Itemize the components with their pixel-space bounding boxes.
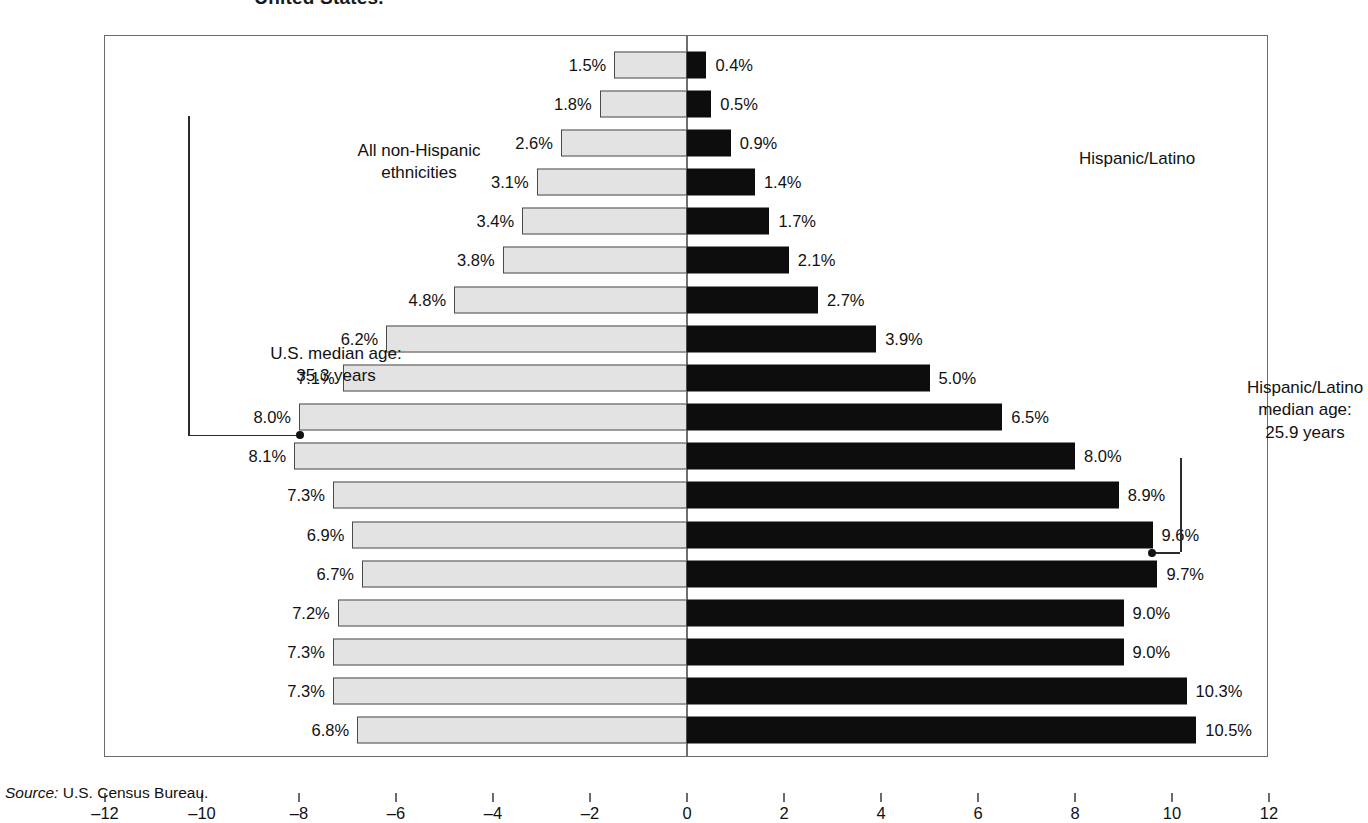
table-row: 80–841.8%0.5% [105,84,1267,123]
bar-value-label-hispanic-latino: 0.5% [720,94,810,113]
bar-non-hispanic [600,90,687,117]
bar-non-hispanic [503,247,687,274]
bar-value-label-non-hispanic: 3.8% [405,251,495,270]
x-axis-tick [686,793,688,802]
group-caption-left: All non-Hispanic ethnicities [273,140,565,185]
us-median-leader-vertical [188,116,190,435]
table-row: 40–448.0%6.5% [105,398,1267,437]
bar-value-label-non-hispanic: 8.0% [201,408,291,427]
table-row: 10–147.3%9.0% [105,633,1267,672]
x-axis-tick-label: –4 [458,804,528,823]
source-label: Source: [5,784,58,801]
bar-value-label-hispanic-latino: 9.6% [1162,525,1252,544]
table-row: 60–643.8%2.1% [105,241,1267,280]
x-axis-tick-label: –2 [555,804,625,823]
hispanic-median-marker-dot [1148,549,1156,557]
bar-hispanic-latino [687,169,755,196]
table-row: 15–197.2%9.0% [105,593,1267,632]
bar-value-label-hispanic-latino: 0.9% [740,133,830,152]
x-axis-tick [1074,793,1076,802]
bar-value-label-non-hispanic: 6.7% [264,564,354,583]
x-axis-tick [589,793,591,802]
x-axis-tick-label: –8 [264,804,334,823]
bar-value-label-hispanic-latino: 9.0% [1133,603,1223,622]
bar-non-hispanic [338,599,687,626]
bar-value-label-non-hispanic: 6.9% [254,525,344,544]
bar-value-label-hispanic-latino: 9.7% [1166,564,1256,583]
x-axis-tick [1268,793,1270,802]
bar-value-label-non-hispanic: 7.3% [235,643,325,662]
us-median-age-annotation: U.S. median age: 35.3 years [209,343,463,388]
bar-hispanic-latino [687,678,1187,705]
bar-hispanic-latino [687,364,930,391]
bar-value-label-hispanic-latino: 1.4% [764,173,854,192]
bar-value-label-non-hispanic: 7.3% [235,682,325,701]
bar-value-label-non-hispanic: 1.8% [502,94,592,113]
x-axis-tick-label: –12 [70,804,140,823]
bar-value-label-hispanic-latino: 2.1% [798,251,888,270]
x-axis-tick [880,793,882,802]
bar-value-label-non-hispanic: 7.2% [240,603,330,622]
table-row: 5–97.3%10.3% [105,672,1267,711]
bar-value-label-non-hispanic: 3.4% [424,212,514,231]
bar-hispanic-latino [687,129,731,156]
bar-non-hispanic [454,286,687,313]
table-row: Over 851.5%0.4% [105,45,1267,84]
bar-non-hispanic [333,678,687,705]
table-row: 20–246.7%9.7% [105,554,1267,593]
bar-hispanic-latino [687,717,1196,744]
x-axis-tick-label: 4 [846,804,916,823]
x-axis-tick-label: 6 [943,804,1013,823]
bar-hispanic-latino [687,482,1119,509]
page-title: United States. [104,0,534,9]
x-axis-tick-label: –6 [361,804,431,823]
bar-non-hispanic [362,560,687,587]
bar-non-hispanic [352,521,687,548]
source-text: U.S. Census Bureau. [63,784,209,801]
hispanic-median-leader-vertical [1180,458,1182,552]
x-axis-tick-label: 0 [652,804,722,823]
bar-hispanic-latino [687,90,711,117]
x-axis-tick [977,793,979,802]
bar-value-label-non-hispanic: 1.5% [516,55,606,74]
x-axis-tick [395,793,397,802]
bar-hispanic-latino [687,599,1124,626]
us-median-leader-horizontal [188,435,300,437]
bar-non-hispanic [561,129,687,156]
bar-non-hispanic [333,482,687,509]
bar-value-label-hispanic-latino: 1.7% [778,212,868,231]
bar-hispanic-latino [687,325,876,352]
bar-value-label-hispanic-latino: 2.7% [827,290,917,309]
bar-non-hispanic [333,639,687,666]
us-median-marker-dot [296,431,304,439]
bar-value-label-hispanic-latino: 10.5% [1205,721,1295,740]
bar-value-label-non-hispanic: 7.3% [235,486,325,505]
table-row: 30–347.3%8.9% [105,476,1267,515]
bar-value-label-non-hispanic: 4.8% [356,290,446,309]
hispanic-median-leader-horizontal [1152,552,1180,554]
bar-value-label-hispanic-latino: 5.0% [939,368,1029,387]
x-axis-tick-label: 8 [1040,804,1110,823]
chart-plot-area: Over 851.5%0.4%80–841.8%0.5%75–792.6%0.9… [104,35,1268,757]
bar-non-hispanic [357,717,687,744]
table-row: Under 56.8%10.5% [105,711,1267,750]
x-axis-tick-label: 10 [1137,804,1207,823]
bar-hispanic-latino [687,247,789,274]
table-row: 35–398.1%8.0% [105,437,1267,476]
bar-value-label-hispanic-latino: 0.4% [715,55,805,74]
bar-non-hispanic [299,404,687,431]
x-axis-tick [492,793,494,802]
bar-value-label-non-hispanic: 6.8% [259,721,349,740]
bar-hispanic-latino [687,208,769,235]
bar-non-hispanic [294,443,687,470]
x-axis-tick [298,793,300,802]
bar-value-label-hispanic-latino: 6.5% [1011,408,1101,427]
bar-hispanic-latino [687,521,1153,548]
group-caption-right: Hispanic/Latino [1005,148,1269,170]
x-axis-tick-label: –10 [167,804,237,823]
table-row: 25–296.9%9.6% [105,515,1267,554]
bar-value-label-non-hispanic: 8.1% [196,447,286,466]
source-note: Source: U.S. Census Bureau. [5,784,208,802]
bar-hispanic-latino [687,560,1157,587]
table-row: 55–594.8%2.7% [105,280,1267,319]
